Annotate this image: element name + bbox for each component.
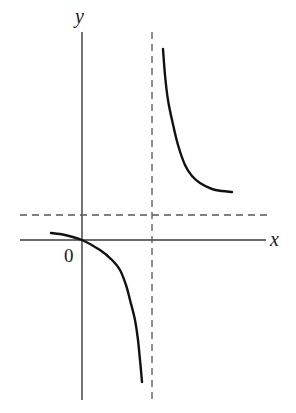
x-axis-label: x [270,229,279,249]
curve-right-branch [163,49,232,192]
origin-label: 0 [64,246,74,265]
function-graph [0,0,296,413]
y-axis-label: y [75,6,84,26]
